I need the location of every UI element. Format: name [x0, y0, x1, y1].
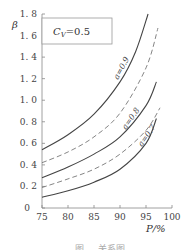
y-tick-label: 0: [24, 203, 30, 213]
x-axis-label: P/%: [145, 223, 166, 234]
x-tick-label: 95: [140, 212, 152, 222]
curve-solid-4: [42, 119, 156, 198]
curve-label-0.7: a=0.7: [136, 122, 158, 148]
y-tick-label: 0. 4: [20, 160, 37, 170]
y-tick-label: 1. 0: [20, 95, 37, 105]
x-ticks: 7580859095100: [36, 205, 181, 222]
y-tick-label: 1. 4: [20, 52, 37, 62]
y-tick-label: 0. 2: [20, 181, 37, 191]
curve-label-0.8: a=0.8: [120, 106, 141, 131]
y-tick-label: 0. 8: [20, 117, 37, 127]
curve-solid-2: [42, 82, 156, 178]
y-tick-label: 1. 2: [20, 74, 37, 84]
x-tick-label: 100: [163, 212, 180, 222]
y-tick-label: 1. 6: [20, 31, 37, 41]
y-axis-label: β: [11, 19, 18, 30]
x-tick-label: 75: [36, 212, 48, 222]
y-tick-label: 0. 6: [20, 138, 37, 148]
y-ticks: 00. 20. 40. 60. 81. 01. 21. 41. 61. 8: [20, 9, 45, 213]
x-tick-label: 90: [114, 212, 126, 222]
x-tick-label: 85: [88, 212, 100, 222]
figure-caption: 图 … 关系图: [30, 240, 170, 250]
x-tick-label: 80: [62, 212, 74, 222]
y-tick-label: 1. 8: [20, 9, 37, 19]
beta-vs-p-chart: 00. 20. 40. 60. 81. 01. 21. 41. 61. 8 75…: [0, 0, 193, 250]
